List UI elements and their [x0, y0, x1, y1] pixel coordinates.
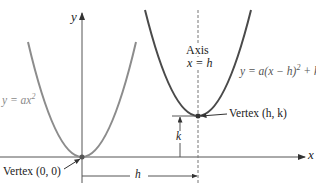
vertex-origin-pointer [64, 159, 80, 169]
x-axis-label: x [308, 148, 314, 161]
equation-y-ax2: y = ax2 [2, 93, 35, 107]
y-axis-label: y [71, 10, 77, 23]
vertex-hk-label: Vertex (h, k) [229, 108, 287, 120]
equation-translated-main: y = a(x − h) [240, 65, 296, 77]
equation-y-ax2-exponent: 2 [31, 92, 35, 101]
vertex-origin-label: Vertex (0, 0) [3, 166, 61, 178]
axis-of-symmetry-label-line2: x = h [186, 57, 213, 69]
diagram-canvas [0, 0, 316, 183]
axis-of-symmetry-label-line1: Axis [185, 44, 210, 56]
equation-translated-suffix: + k [300, 65, 316, 77]
k-dimension-label: k [176, 131, 181, 143]
equation-y-ax2-main: y = ax [2, 94, 31, 106]
parabola-diagram: y x y = ax2 y = a(x − h)2 + k Axis x = h… [0, 0, 316, 183]
vertex-origin-dot [80, 155, 85, 160]
equation-translated: y = a(x − h)2 + k [240, 64, 316, 78]
vertex-hk-dot [196, 114, 201, 119]
h-dimension-label: h [135, 169, 141, 181]
